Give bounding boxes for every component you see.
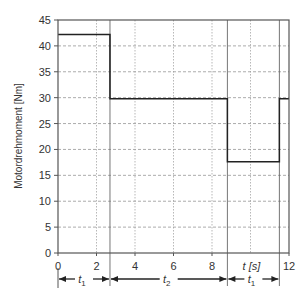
y-tick-label: 30 <box>39 92 51 104</box>
arrow-right-icon <box>219 276 226 282</box>
y-tick-label: 5 <box>45 221 51 233</box>
y-tick-label: 20 <box>39 143 51 155</box>
interval-label: t1 <box>248 273 256 288</box>
y-tick-label: 0 <box>45 247 51 259</box>
y-axis-ticks: 051015202530354045 <box>39 14 58 259</box>
arrow-left-icon <box>228 276 235 282</box>
x-axis-ticks: 0246812t [s] <box>55 253 295 272</box>
y-tick-label: 45 <box>39 14 51 26</box>
x-tick-label: 4 <box>132 260 138 272</box>
x-tick-label: 6 <box>170 260 176 272</box>
arrow-right-icon <box>271 276 278 282</box>
interval-label: t2 <box>163 273 171 288</box>
torque-chart: 051015202530354045 0246812t [s] Motordre… <box>0 0 307 307</box>
interval-label-subscript: 1 <box>81 279 86 288</box>
interval-label: t1 <box>78 273 86 288</box>
interval-label-subscript: 2 <box>166 279 171 288</box>
x-tick-label: 2 <box>93 260 99 272</box>
x-tick-label: 12 <box>283 260 295 272</box>
arrow-right-icon <box>102 276 109 282</box>
phase-markers <box>110 20 279 286</box>
x-axis-label: t [s] <box>243 260 262 272</box>
y-tick-label: 10 <box>39 195 51 207</box>
y-tick-label: 40 <box>39 40 51 52</box>
x-tick-label: 8 <box>209 260 215 272</box>
y-axis-label: Motordrehmoment [Nm] <box>13 83 24 189</box>
y-tick-label: 35 <box>39 66 51 78</box>
arrow-left-icon <box>111 276 118 282</box>
y-tick-label: 15 <box>39 169 51 181</box>
interval-label-subscript: 1 <box>251 279 256 288</box>
arrow-left-icon <box>59 276 66 282</box>
grid <box>58 20 289 253</box>
y-tick-label: 25 <box>39 118 51 130</box>
